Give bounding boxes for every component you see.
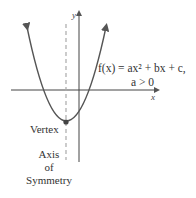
axis-of-symmetry-label: Axis of Symmetry xyxy=(26,148,72,187)
equation-line-2: a > 0 xyxy=(131,76,154,88)
x-axis-label: x xyxy=(151,91,155,103)
y-axis-label: y xyxy=(72,9,76,21)
equation-line-1: f(x) = ax² + bx + c, xyxy=(98,62,186,74)
vertex-point xyxy=(63,119,68,124)
vertex-label: Vertex xyxy=(30,123,59,135)
axis-of-symmetry-label-line-3: Symmetry xyxy=(26,174,72,187)
axis-of-symmetry-label-line-2: of xyxy=(26,161,72,174)
axis-of-symmetry-label-line-1: Axis xyxy=(26,148,72,161)
